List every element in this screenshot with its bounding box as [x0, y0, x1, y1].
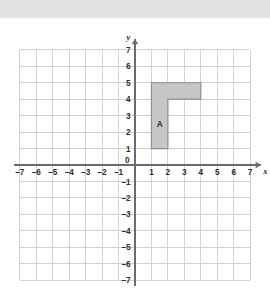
y-tick-label: –1	[121, 178, 131, 187]
coordinate-grid-figure: –7–6–5–4–3–2–1012345677654321–1–2–3–4–5–…	[0, 0, 270, 300]
x-tick-label: 6	[231, 168, 236, 177]
y-tick-label: 4	[126, 95, 131, 104]
origin-label: 0	[125, 156, 130, 165]
y-tick-label: 1	[126, 145, 131, 154]
x-tick-label: 4	[199, 168, 204, 177]
y-tick-label: 3	[126, 112, 131, 121]
x-tick-label: –4	[65, 168, 75, 177]
axes	[14, 39, 261, 286]
x-tick-label: –7	[15, 168, 25, 177]
y-tick-label: –7	[121, 276, 131, 285]
x-tick-label: 7	[248, 168, 253, 177]
x-tick-label: 5	[215, 168, 220, 177]
x-tick-label: 1	[149, 168, 154, 177]
y-tick-label: –3	[121, 210, 131, 219]
x-axis-arrowhead	[256, 162, 262, 168]
x-tick-label: –1	[114, 168, 124, 177]
y-axis-label: y	[126, 32, 131, 42]
y-axis-arrowhead	[132, 39, 138, 45]
y-tick-label: 5	[126, 79, 131, 88]
y-tick-label: –5	[121, 243, 131, 252]
x-tick-label: –3	[81, 168, 91, 177]
axis-names: xy	[126, 32, 269, 176]
coordinate-plane-svg: –7–6–5–4–3–2–1012345677654321–1–2–3–4–5–…	[0, 0, 270, 300]
y-tick-label: –4	[121, 227, 131, 236]
graph-canvas: –7–6–5–4–3–2–1012345677654321–1–2–3–4–5–…	[0, 0, 270, 300]
y-tick-label: 7	[126, 46, 131, 55]
y-tick-label: –2	[121, 194, 131, 203]
x-axis-label: x	[262, 166, 268, 176]
y-tick-label: 2	[126, 128, 131, 137]
x-tick-label: –5	[48, 168, 58, 177]
x-tick-label: 3	[182, 168, 187, 177]
y-tick-label: –6	[121, 260, 131, 269]
x-tick-label: –2	[98, 168, 108, 177]
shape-label-a: A	[157, 120, 163, 129]
x-tick-label: –6	[32, 168, 42, 177]
y-tick-label: 6	[126, 62, 131, 71]
x-tick-label: 2	[166, 168, 171, 177]
